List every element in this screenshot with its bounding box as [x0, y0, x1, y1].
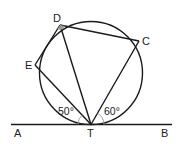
label-a: A [14, 127, 22, 139]
label-t: T [87, 127, 94, 139]
circle [40, 22, 143, 125]
label-c: C [142, 35, 150, 47]
angle-label-60: 60° [104, 105, 120, 117]
label-b: B [161, 127, 168, 139]
angle-label-50: 50° [58, 105, 74, 117]
segment-de [35, 25, 60, 65]
label-e: E [25, 59, 32, 71]
segment-dc [60, 25, 139, 41]
geometry-diagram: D C E A T B 50° 60° [0, 0, 182, 151]
label-d: D [53, 12, 61, 24]
